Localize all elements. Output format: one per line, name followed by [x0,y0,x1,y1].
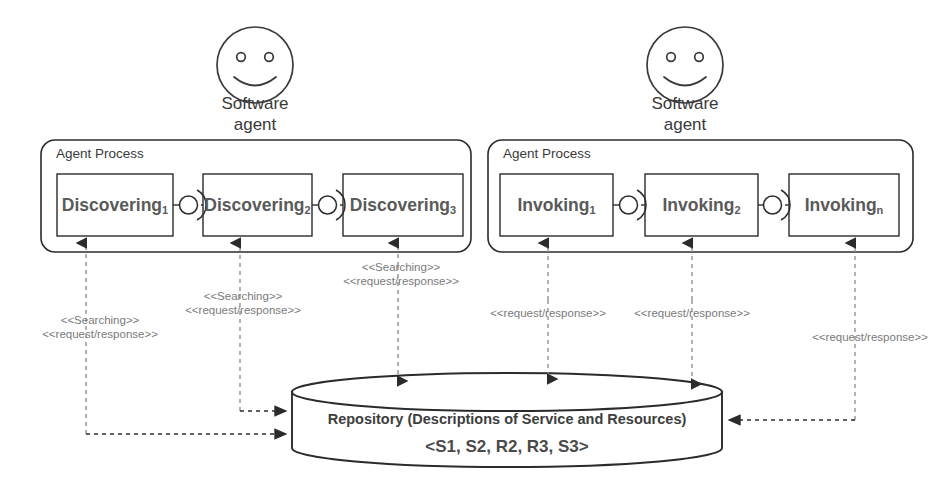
actor-right-line2: agent [620,114,750,135]
actor-left-line1: Software [190,93,320,114]
connector-label-discovering-2: <<Searching>> <<request/response>> [163,290,323,317]
diagram-canvas: Software agent Software agent Agent Proc… [0,0,949,494]
node-name-discovering-2: Discovering [204,195,304,215]
node-label-discovering-2: Discovering2 [201,195,314,216]
repository-label-line1: Repository (Descriptions of Service and … [292,411,722,427]
agent-process-left-title: Agent Process [56,146,144,161]
actor-left-line2: agent [190,114,320,135]
node-label-discovering-3: Discovering3 [343,195,463,216]
dependency-discovering-2 [240,243,286,411]
smiley-face-icon-left [217,27,293,103]
connector-label-discovering-3-line2: <<request/response>> [321,275,481,289]
smiley-face-icon-right [647,27,723,103]
node-name-invoking-n: Invoking [805,195,877,215]
connector-label-invoking-1: <<request/response>> [468,307,628,321]
node-subscript-discovering-1: 1 [162,204,168,216]
node-name-discovering-1: Discovering [62,195,162,215]
node-label-invoking-2: Invoking2 [645,195,758,216]
repository-label-line2: <S1, S2, R2, R3, S3> [292,437,722,457]
connector-label-invoking-n: <<request/response>> [790,331,949,345]
connector-label-invoking-n-line1: <<request/response>> [790,331,949,345]
node-subscript-discovering-2: 2 [305,204,311,216]
connector-label-invoking-2: <<request/response>> [612,307,772,321]
node-name-invoking-1: Invoking [517,195,589,215]
node-subscript-invoking-2: 2 [734,204,740,216]
node-label-invoking-1: Invoking1 [500,195,613,216]
node-label-invoking-n: Invokingn [789,195,899,216]
agent-process-right-title: Agent Process [503,146,591,161]
connector-label-discovering-3: <<Searching>> <<request/response>> [321,261,481,288]
node-subscript-discovering-3: 3 [450,204,456,216]
connector-label-discovering-1-line2: <<request/response>> [20,328,180,342]
node-subscript-invoking-1: 1 [589,204,595,216]
connector-label-discovering-3-line1: <<Searching>> [321,261,481,275]
actor-label-right: Software agent [620,93,750,135]
node-subscript-invoking-n: n [877,204,884,216]
node-name-discovering-3: Discovering [350,195,450,215]
connector-label-discovering-2-line1: <<Searching>> [163,290,323,304]
connector-label-discovering-1-line1: <<Searching>> [20,314,180,328]
actor-right-line1: Software [620,93,750,114]
connector-label-invoking-2-line1: <<request/response>> [612,307,772,321]
connector-label-discovering-2-line2: <<request/response>> [163,304,323,318]
node-label-discovering-1: Discovering1 [57,195,173,216]
node-name-invoking-2: Invoking [662,195,734,215]
connector-label-discovering-1: <<Searching>> <<request/response>> [20,314,180,341]
actor-label-left: Software agent [190,93,320,135]
connector-label-invoking-1-line1: <<request/response>> [468,307,628,321]
